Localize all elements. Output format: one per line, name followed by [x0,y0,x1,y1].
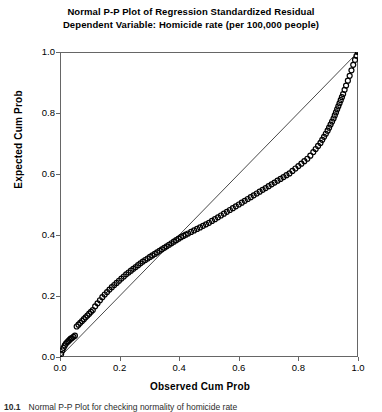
figure-caption: 10.1Normal P-P Plot for checking normali… [0,402,382,412]
x-tick-value: 0.4 [159,363,199,373]
y-tick-mark [56,235,60,236]
x-tick-mark [239,357,240,361]
x-tick-value: 0.6 [219,363,259,373]
figure-number: 10.1 [0,402,29,412]
x-axis-title: Observed Cum Prob [0,381,382,392]
x-tick-value: 0.8 [278,363,318,373]
x-tick-mark [60,357,61,361]
x-tick-mark [179,357,180,361]
y-tick-value: 1.0 [7,47,55,57]
plot-canvas [60,52,358,357]
reference-line [60,52,358,357]
y-tick-mark [56,296,60,297]
x-tick-mark [358,357,359,361]
y-tick-value: 0.4 [7,230,55,240]
x-tick-value: 1.0 [338,363,378,373]
x-tick-mark [298,357,299,361]
y-tick-mark [56,52,60,53]
y-tick-value: 0.0 [7,352,55,362]
x-axis-tick-labels: 0.00.20.40.60.81.0 [0,363,382,375]
y-axis-title: Expected Cum Prob [13,60,24,220]
y-tick-mark [56,174,60,175]
figure-caption-text: Normal P-P Plot for checking normality o… [29,402,238,412]
pp-plot-chart: 0.00.20.40.60.81.0 0.00.20.40.60.81.0 Ob… [0,0,382,412]
x-tick-mark [120,357,121,361]
y-tick-mark [56,113,60,114]
y-tick-value: 0.2 [7,291,55,301]
x-tick-value: 0.0 [40,363,80,373]
x-tick-value: 0.2 [100,363,140,373]
